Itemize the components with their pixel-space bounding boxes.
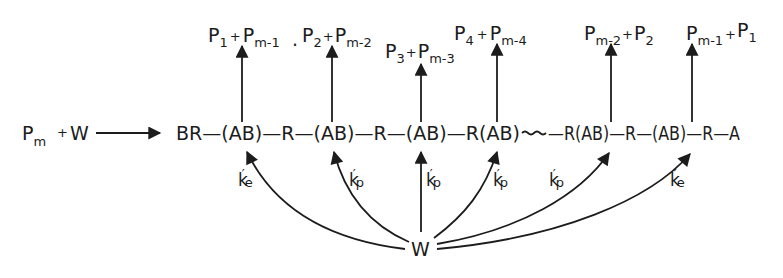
reactant-polymer: Pm [22, 122, 46, 149]
chain-segment-2: —R(AB)—R—(AB)—R—A [548, 122, 740, 144]
attack-curve-1 [247, 152, 405, 249]
chain-segment-1: BR—(AB)—R—(AB)—R—(AB)—R(AB) [176, 122, 520, 144]
product-arrows [242, 44, 692, 122]
rate-constant-6: k′e [670, 166, 685, 190]
rate-constant-3: k′p [426, 166, 441, 190]
attack-curve-5 [437, 153, 609, 244]
reactants: Pm + W [22, 122, 89, 149]
rate-constants: k′e k′p k′p k′p k′p k′e [238, 166, 685, 190]
polymer-chain: BR—(AB)—R—(AB)—R—(AB)—R(AB) —R(AB)—R—(AB… [176, 122, 740, 144]
rate-constant-4: k′p [493, 166, 508, 190]
chain-ellipsis-wave [522, 132, 546, 135]
separator-dot: . [292, 28, 298, 50]
product-2: P2+Pm-2 [302, 24, 372, 50]
reactant-water: W [70, 122, 89, 144]
product-6: Pm-1+P1 [686, 19, 757, 48]
products: P1+Pm-1 . P2+Pm-2 P3+Pm-3 P4+Pm-4 Pm-2+P… [208, 19, 757, 66]
attack-curve-6 [437, 154, 690, 249]
product-1: P1+Pm-1 [208, 24, 280, 50]
rate-constant-5: k′p [549, 166, 564, 190]
attack-curve-4 [434, 152, 497, 238]
water-node: W [411, 238, 430, 260]
product-3: P3+Pm-3 [385, 40, 455, 66]
reactant-plus: + [57, 125, 68, 140]
product-4: P4+Pm-4 [454, 22, 527, 48]
attack-curve-2 [334, 152, 409, 242]
water-attack-curves [247, 152, 690, 249]
rate-constant-1: k′e [238, 166, 253, 190]
product-5: Pm-2+P2 [584, 22, 654, 48]
hydrolysis-scheme-diagram: Pm + W BR—(AB)—R—(AB)—R—(AB)—R(AB) —R(AB… [0, 0, 783, 278]
rate-constant-2: k′p [349, 166, 364, 190]
